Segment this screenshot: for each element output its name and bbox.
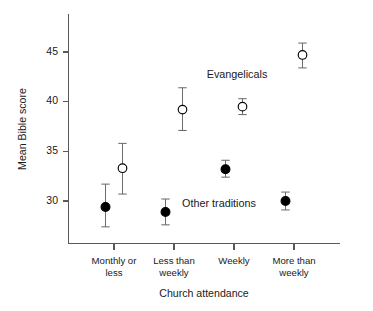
x-tick-label-1-line2: weekly	[158, 267, 189, 278]
x-tick-label-3: More than	[272, 255, 315, 266]
x-axis-tick-labels: Monthly orlessLess thanweeklyWeeklyMore …	[92, 255, 316, 278]
y-tick-label-45: 45	[46, 45, 58, 57]
data-point-open-circle	[118, 164, 127, 173]
x-tick-label-0: Monthly or	[92, 255, 138, 266]
y-axis-tick-labels: 30354045	[46, 45, 58, 206]
data-point-open-circle	[178, 105, 187, 114]
data-point-filled-circle	[221, 165, 230, 174]
series-evangelicals	[118, 43, 307, 194]
y-axis-title: Mean Bible score	[16, 88, 28, 170]
x-tick-label-0-line2: less	[105, 267, 122, 278]
data-point-filled-circle	[101, 203, 110, 212]
x-axis-title: Church attendance	[159, 287, 249, 299]
y-tick-label-35: 35	[46, 144, 58, 156]
x-tick-label-3-line2: weekly	[278, 267, 309, 278]
bible-score-chart-figure: 30354045 Monthly orlessLess thanweeklyWe…	[0, 0, 373, 311]
data-point-filled-circle	[281, 197, 290, 206]
x-tick-label-1: Less than	[153, 255, 195, 266]
data-point-filled-circle	[161, 208, 170, 217]
y-tick-label-30: 30	[46, 194, 58, 206]
x-axis-ticks	[114, 244, 294, 250]
y-tick-label-40: 40	[46, 94, 58, 106]
chart-plot-area: 30354045 Monthly orlessLess thanweeklyWe…	[0, 0, 373, 311]
data-point-open-circle	[238, 102, 247, 111]
annotation-evangelicals: Evangelicals	[207, 68, 268, 80]
data-point-open-circle	[298, 51, 307, 60]
annotation-other-traditions: Other traditions	[182, 197, 256, 209]
x-tick-label-2: Weekly	[218, 255, 249, 266]
series-other-traditions	[101, 160, 290, 227]
series-annotations: EvangelicalsOther traditions	[182, 68, 268, 209]
y-axis-ticks	[63, 52, 69, 201]
